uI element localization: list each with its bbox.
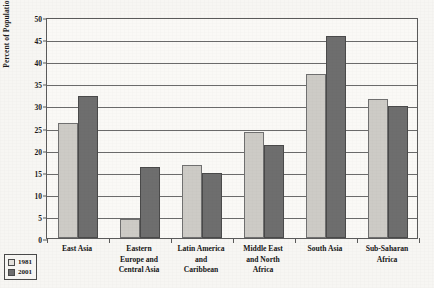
x-axis-category-label-line: and North bbox=[232, 255, 294, 266]
x-axis-category-label: Latin AmericaandCaribbean bbox=[170, 244, 232, 276]
y-axis-tick-label: 40 bbox=[35, 59, 43, 68]
legend-item-label: 2001 bbox=[18, 268, 32, 276]
x-axis-category-label-line: Caribbean bbox=[170, 265, 232, 276]
legend-item-2001[interactable]: 2001 bbox=[8, 267, 32, 277]
y-axis-tick-label: 30 bbox=[35, 103, 43, 112]
x-axis-category-label-line: Latin America bbox=[170, 244, 232, 255]
y-axis-tick-label: 20 bbox=[35, 147, 43, 156]
bar-2001 bbox=[78, 96, 98, 238]
legend-swatch-icon bbox=[8, 259, 15, 266]
bar-2001 bbox=[202, 173, 222, 238]
bar-2001 bbox=[140, 167, 160, 238]
y-axis-tick-label: 10 bbox=[35, 191, 43, 200]
x-axis-category-label-line: Africa bbox=[356, 255, 418, 266]
legend-swatch-icon bbox=[8, 269, 15, 276]
x-axis-category-label-line: South Asia bbox=[294, 244, 356, 255]
x-axis-tick-mark bbox=[357, 238, 358, 243]
x-axis-category-label: East Asia bbox=[46, 244, 108, 255]
x-axis-tick-mark bbox=[171, 238, 172, 243]
x-axis-category-labels: East AsiaEasternEurope andCentral AsiaLa… bbox=[46, 244, 418, 288]
x-axis-category-label: South Asia bbox=[294, 244, 356, 255]
x-axis-category-label-line: Europe and bbox=[108, 255, 170, 266]
bar-group bbox=[58, 19, 98, 238]
x-axis-tick-mark bbox=[233, 238, 234, 243]
y-axis-tick-label: 15 bbox=[35, 169, 43, 178]
x-axis-category-label-line: and bbox=[170, 255, 232, 266]
x-axis-category-label-line: Sub-Saharan bbox=[356, 244, 418, 255]
bar-1981 bbox=[120, 219, 140, 238]
x-axis-category-label-line: Eastern bbox=[108, 244, 170, 255]
y-axis-tick-label: 0 bbox=[38, 236, 42, 245]
y-axis-tick-label: 25 bbox=[35, 125, 43, 134]
bar-group bbox=[306, 19, 346, 238]
bar-1981 bbox=[58, 123, 78, 238]
x-axis-category-label-line: East Asia bbox=[46, 244, 108, 255]
x-axis-category-label: Middle Eastand NorthAfrica bbox=[232, 244, 294, 276]
plot-area: 05101520253035404550 bbox=[46, 18, 418, 239]
bar-2001 bbox=[326, 36, 346, 238]
bar-group bbox=[120, 19, 160, 238]
x-axis-tick-mark bbox=[47, 238, 48, 243]
x-axis-category-label-line: Central Asia bbox=[108, 265, 170, 276]
x-axis-tick-mark bbox=[109, 238, 110, 243]
bar-1981 bbox=[182, 165, 202, 238]
x-axis-category-label-line: Middle East bbox=[232, 244, 294, 255]
x-axis-category-label: Sub-SaharanAfrica bbox=[356, 244, 418, 265]
x-axis-category-label: EasternEurope andCentral Asia bbox=[108, 244, 170, 276]
bar-2001 bbox=[388, 106, 408, 238]
bar-1981 bbox=[306, 74, 326, 238]
chart-page: Percent of Population 051015202530354045… bbox=[0, 0, 434, 288]
y-axis-tick-label: 35 bbox=[35, 81, 43, 90]
bar-group bbox=[368, 19, 408, 238]
bar-series-container bbox=[47, 19, 417, 238]
y-axis-tick-label: 50 bbox=[35, 15, 43, 24]
bar-1981 bbox=[244, 132, 264, 238]
y-axis-tick-label: 45 bbox=[35, 37, 43, 46]
x-axis-tick-mark bbox=[295, 238, 296, 243]
y-axis-tick-label: 5 bbox=[38, 213, 42, 222]
bar-1981 bbox=[368, 99, 388, 238]
legend-item-label: 1981 bbox=[18, 258, 32, 266]
x-axis-category-label-line: Africa bbox=[232, 265, 294, 276]
y-axis-title: Percent of Population bbox=[2, 0, 18, 92]
bar-2001 bbox=[264, 145, 284, 238]
x-axis-tick-mark bbox=[419, 238, 420, 243]
bar-group bbox=[244, 19, 284, 238]
chart-legend: 19812001 bbox=[4, 254, 37, 280]
bar-group bbox=[182, 19, 222, 238]
legend-item-1981[interactable]: 1981 bbox=[8, 257, 32, 267]
